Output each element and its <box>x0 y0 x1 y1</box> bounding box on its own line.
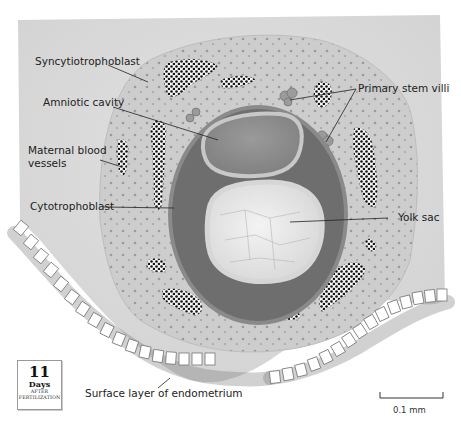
label-primary-stem-villi: Primary stem villi <box>358 82 449 95</box>
label-cytotrophoblast: Cytotrophoblast <box>30 200 114 213</box>
scale-bar <box>380 392 443 398</box>
yolk-sac <box>207 182 322 282</box>
label-surface-endometrium: Surface layer of endometrium <box>85 387 243 400</box>
label-syncytiotrophoblast: Syncytiotrophoblast <box>35 55 140 68</box>
amniotic-cavity <box>203 114 302 176</box>
label-amniotic-cavity: Amniotic cavity <box>43 96 124 109</box>
scale-bar-label: 0.1 mm <box>393 405 426 415</box>
day-number: 11 <box>18 364 61 380</box>
label-yolk-sac: Yolk sac <box>398 211 439 224</box>
label-maternal-blood-vessels-1: Maternal blood <box>28 144 107 157</box>
day-badge: 11 Days AFTER FERTILIZATION <box>17 360 62 410</box>
day-fertilization: FERTILIZATION <box>18 395 61 401</box>
day-unit: Days <box>18 380 61 389</box>
label-maternal-blood-vessels-2: vessels <box>28 157 66 170</box>
